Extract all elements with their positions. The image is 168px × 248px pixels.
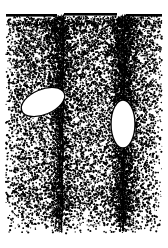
stipple-illustration-canvas	[0, 0, 168, 248]
figure-container: Stippled line-art cross-section of fract…	[0, 0, 168, 248]
